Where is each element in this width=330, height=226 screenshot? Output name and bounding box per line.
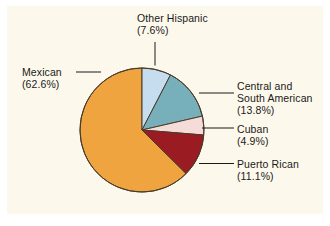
pie-label-central-south-american-line2: South American [237, 92, 313, 104]
pie-label-other-hispanic: Other Hispanic (7.6%) [137, 12, 208, 36]
pie-label-other-hispanic-percent: (7.6%) [137, 24, 208, 36]
pie-label-mexican-percent: (62.6%) [22, 78, 62, 90]
pie-label-cuban-percent: (4.9%) [237, 135, 269, 147]
pie-label-puerto-rican-name: Puerto Rican [237, 158, 299, 170]
pie-label-central-south-american-percent: (13.8%) [237, 104, 313, 116]
pie-label-central-south-american-line1: Central and [237, 80, 292, 92]
pie-label-puerto-rican: Puerto Rican (11.1%) [237, 158, 299, 182]
pie-label-mexican-name: Mexican [22, 66, 62, 78]
pie-label-mexican: Mexican (62.6%) [22, 66, 62, 90]
pie-label-cuban-name: Cuban [237, 123, 268, 135]
pie-label-other-hispanic-name: Other Hispanic [137, 12, 208, 24]
pie-label-cuban: Cuban (4.9%) [237, 123, 269, 147]
pie-label-puerto-rican-percent: (11.1%) [237, 170, 299, 182]
pie-chart-figure: Other Hispanic (7.6%) Central and South … [0, 0, 330, 226]
pie-label-central-south-american: Central and South American (13.8%) [237, 80, 313, 117]
